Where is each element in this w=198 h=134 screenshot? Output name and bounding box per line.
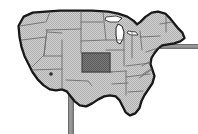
highlighted-state-group[interactable]	[82, 53, 110, 72]
lake-superior-shape	[105, 16, 122, 22]
us-landmass[interactable]	[19, 11, 184, 115]
highlighted-state-kansas[interactable]	[82, 53, 110, 72]
city-marker-icon[interactable]	[49, 72, 53, 76]
us-map-graphic[interactable]	[0, 0, 198, 134]
map-figure: United States map with one highlighted s…	[0, 0, 198, 134]
